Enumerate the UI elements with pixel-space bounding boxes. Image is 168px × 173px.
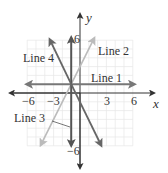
tick-x-3: 3 bbox=[104, 94, 110, 108]
line-4-label: Line 4 bbox=[23, 51, 54, 65]
tick-x-neg6: −6 bbox=[22, 94, 35, 108]
x-axis-label: x bbox=[152, 96, 159, 111]
line-2-label: Line 2 bbox=[98, 44, 129, 58]
tick-x-neg3: −3 bbox=[47, 94, 60, 108]
tick-x-6: 6 bbox=[131, 94, 137, 108]
line-3-leader bbox=[52, 121, 70, 127]
line-1-label: Line 1 bbox=[91, 71, 122, 85]
coordinate-plane: −6 −3 3 6 6 −6 x y Line 1 Line 2 Line 3 … bbox=[0, 0, 168, 173]
tick-y-neg6: −6 bbox=[67, 144, 80, 158]
tick-y-6: 6 bbox=[74, 32, 80, 46]
y-axis-label: y bbox=[84, 10, 92, 25]
line-3-label: Line 3 bbox=[14, 111, 45, 125]
